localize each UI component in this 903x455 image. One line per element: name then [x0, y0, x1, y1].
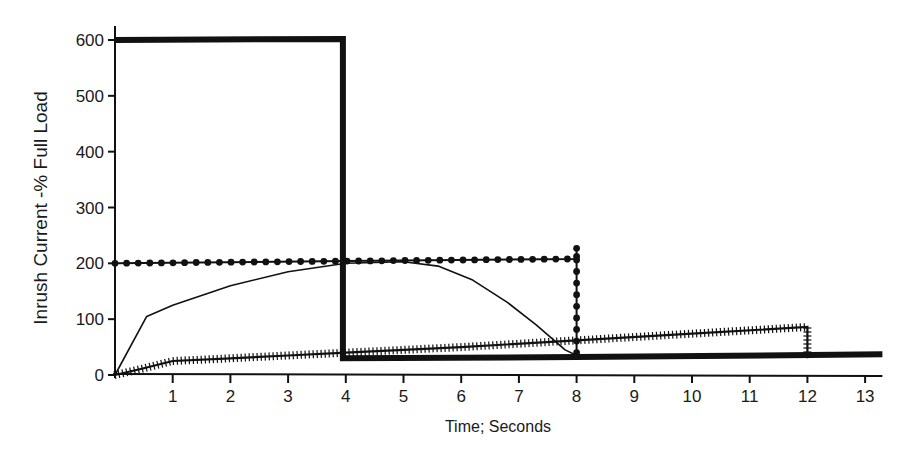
- hatch-mark: [800, 323, 801, 331]
- x-tick-label: 5: [399, 387, 408, 406]
- hatch-mark: [545, 338, 546, 346]
- hatch-mark: [485, 342, 486, 350]
- data-point: [471, 257, 478, 264]
- hatch-mark: [593, 336, 594, 344]
- hatch-mark: [768, 325, 769, 333]
- data-point: [529, 256, 536, 263]
- data-point: [552, 256, 559, 263]
- data-point: [460, 257, 467, 264]
- x-tick-label: 6: [456, 387, 465, 406]
- hatch-mark: [772, 325, 773, 333]
- data-point: [425, 257, 432, 264]
- x-tick-label: 12: [798, 387, 817, 406]
- data-point: [204, 259, 211, 266]
- hatch-mark: [601, 335, 602, 343]
- hatch-mark: [549, 338, 550, 346]
- hatch-mark: [489, 342, 490, 350]
- hatch-mark: [648, 332, 649, 340]
- hatch-mark: [776, 325, 777, 333]
- y-tick-label: 300: [76, 199, 104, 218]
- hatch-mark: [680, 330, 681, 338]
- data-point: [573, 315, 580, 322]
- hatch-mark: [728, 328, 729, 336]
- hatch-mark: [736, 327, 737, 335]
- hatch-mark: [740, 327, 741, 335]
- data-point: [506, 256, 513, 263]
- hatch-mark: [780, 325, 781, 333]
- hatch-mark: [668, 331, 669, 339]
- data-point: [286, 258, 293, 265]
- hatch-mark: [473, 342, 474, 350]
- x-tick-label: 9: [630, 387, 639, 406]
- hatch-mark: [605, 335, 606, 343]
- hatch-mark: [744, 327, 745, 335]
- data-point: [448, 257, 455, 264]
- hatch-mark: [609, 335, 610, 343]
- hatch-mark: [788, 324, 789, 332]
- data-point: [239, 259, 246, 266]
- hatch-mark: [617, 334, 618, 342]
- data-point: [564, 256, 571, 263]
- hatch-mark: [497, 341, 498, 349]
- hatch-mark: [537, 339, 538, 347]
- hatch-mark: [505, 341, 506, 349]
- hatch-mark: [784, 324, 785, 332]
- hatch-mark: [589, 336, 590, 344]
- hatch-mark: [712, 329, 713, 337]
- data-point: [251, 259, 258, 266]
- data-point: [378, 257, 385, 264]
- data-point: [146, 260, 153, 267]
- data-point: [573, 280, 580, 287]
- data-point: [573, 245, 580, 252]
- data-point: [193, 259, 200, 266]
- x-tick-label: 11: [741, 387, 759, 406]
- hatch-mark: [672, 331, 673, 339]
- y-axis-title: Inrush Current -% Full Load: [30, 91, 51, 324]
- series-layer: [112, 39, 883, 379]
- x-tick-label: 10: [683, 387, 702, 406]
- hatch-mark: [792, 324, 793, 332]
- y-tick-label: 0: [95, 366, 104, 385]
- data-point: [573, 326, 580, 333]
- data-point: [181, 259, 188, 266]
- hatch-mark: [557, 338, 558, 346]
- x-axis-line: [113, 374, 882, 376]
- data-point: [170, 259, 177, 266]
- hatch-mark: [625, 334, 626, 342]
- y-tick-label: 100: [76, 310, 104, 329]
- data-point: [436, 257, 443, 264]
- x-tick-label: 8: [572, 387, 581, 406]
- x-tick-label: 4: [341, 387, 350, 406]
- series-cross-hatched: [114, 323, 811, 379]
- x-tick-label: 2: [226, 387, 235, 406]
- hatch-mark: [684, 330, 685, 338]
- hatch-mark: [676, 331, 677, 339]
- hatch-mark: [732, 327, 733, 335]
- y-tick-label: 500: [76, 87, 104, 106]
- data-point: [123, 260, 130, 267]
- data-point: [262, 259, 269, 266]
- hatch-mark: [533, 339, 534, 347]
- x-tick-label: 3: [283, 387, 292, 406]
- hatch-mark: [708, 329, 709, 337]
- data-point: [541, 256, 548, 263]
- series-thick-solid: [115, 39, 882, 358]
- data-point: [573, 303, 580, 310]
- y-ticks: 0100200300400500600: [76, 31, 115, 385]
- hatch-mark: [716, 328, 717, 336]
- hatch-mark: [493, 341, 494, 349]
- hatch-mark: [597, 335, 598, 343]
- data-point: [228, 259, 235, 266]
- data-point: [518, 256, 525, 263]
- data-point: [573, 291, 580, 298]
- hatch-mark: [656, 332, 657, 340]
- data-point: [135, 260, 142, 267]
- hatch-mark: [652, 332, 653, 340]
- y-tick-label: 400: [76, 143, 104, 162]
- data-point: [216, 259, 223, 266]
- data-point: [494, 256, 501, 263]
- series-line: [115, 39, 882, 358]
- data-point: [332, 258, 339, 265]
- data-point: [274, 258, 281, 265]
- hatch-mark: [724, 328, 725, 336]
